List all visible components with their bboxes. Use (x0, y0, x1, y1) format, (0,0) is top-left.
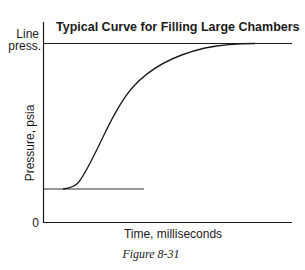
x-axis-label: Time, milliseconds (124, 227, 222, 241)
pressure-curve (63, 44, 255, 190)
y-tick-zero: 0 (32, 216, 39, 230)
chart-title: Typical Curve for Filling Large Chambers (56, 20, 300, 34)
y-tick-line-press-2: press. (8, 39, 41, 53)
y-axis-label: Pressure, psia (23, 104, 37, 181)
figure-caption: Figure 8-31 (121, 247, 179, 261)
chart: Typical Curve for Filling Large Chambers… (0, 0, 305, 270)
